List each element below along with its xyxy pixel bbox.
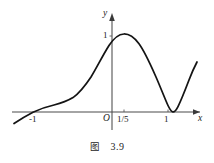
plot-area: y x O 1 -1 1/5 1: [0, 0, 214, 137]
tick-label-x-one: 1: [164, 115, 169, 124]
y-axis-label: y: [103, 9, 107, 19]
y-axis-arrowhead: [109, 13, 115, 21]
x-axis-label: x: [198, 114, 202, 124]
tick-label-x-one-fifth: 1/5: [117, 115, 129, 124]
tick-label-y-one: 1: [103, 31, 108, 40]
figure-container: y x O 1 -1 1/5 1 图3.9: [0, 0, 214, 163]
function-curve: [14, 34, 197, 124]
figure-caption: 图3.9: [0, 139, 214, 153]
figure-caption-word: 图: [90, 141, 100, 152]
figure-caption-number: 3.9: [111, 141, 125, 152]
origin-label: O: [103, 114, 110, 124]
tick-label-x-negative-one: -1: [29, 115, 37, 124]
